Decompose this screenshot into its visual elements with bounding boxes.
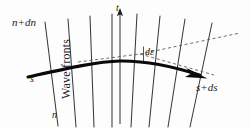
wavefront-line-6	[149, 16, 160, 127]
dashed-tangent-upper	[140, 33, 240, 54]
wavefront-line-5	[131, 14, 137, 127]
label-s-plus-ds: s+ds	[196, 82, 217, 93]
label-n: n	[52, 110, 57, 120]
wavefront-line-3	[90, 16, 94, 127]
ray-curve-group	[28, 61, 208, 79]
label-n-plus-dn: n+dn	[12, 17, 36, 28]
label-wave-fronts: Wave fronts	[60, 0, 72, 27]
wavefront-line-7	[168, 19, 185, 127]
figure-canvas	[0, 0, 250, 129]
wave-fronts-figure: n+dn n s s+ds t dε Wave fronts	[0, 0, 250, 129]
time-axis-group	[117, 8, 123, 124]
label-wave-fronts-text: Wave fronts	[60, 39, 72, 99]
label-s: s	[30, 74, 34, 84]
dashed-tangent-group	[78, 33, 240, 75]
label-t-axis: t	[116, 3, 119, 13]
label-d-epsilon: dε	[145, 47, 154, 57]
